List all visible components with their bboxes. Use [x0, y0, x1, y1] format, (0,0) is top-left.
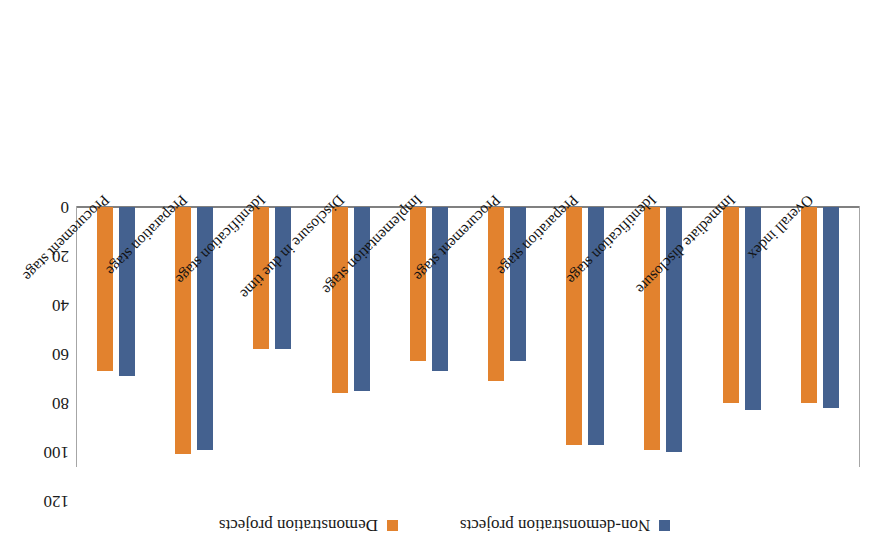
x-axis-category-labels: Overall indexImmediate disclosureIdentif…	[77, 55, 859, 205]
category-label-slot: Procurement stage	[468, 55, 546, 205]
bar-demonstration	[175, 207, 191, 454]
bar-non-demonstration	[275, 207, 291, 349]
bar-non-demonstration	[119, 207, 135, 376]
bar-demonstration	[566, 207, 582, 445]
bar-non-demonstration	[354, 207, 370, 391]
category-label-slot: Immediate disclosure	[703, 55, 781, 205]
bar-group	[703, 207, 781, 557]
y-axis-tick-label: 80	[17, 395, 69, 412]
bar-group	[781, 207, 859, 557]
bar-demonstration	[97, 207, 113, 371]
bar-demonstration	[801, 207, 817, 403]
bar-non-demonstration	[823, 207, 839, 408]
category-label-slot: Implementation stage	[390, 55, 468, 205]
category-label-slot: Identification stage	[233, 55, 311, 205]
bar-non-demonstration	[510, 207, 526, 361]
bar-demonstration	[488, 207, 504, 381]
category-label-slot: Preparation stage	[155, 55, 233, 205]
bar-demonstration	[645, 207, 661, 450]
y-axis-tick-label: 60	[17, 346, 69, 363]
category-label-slot: Disclosure in due time	[312, 55, 390, 205]
y-axis-tick-label: 0	[17, 199, 69, 216]
figure-rotation-wrapper: Non-demonstration projects Demonstration…	[0, 0, 889, 557]
category-label-slot: Preparation stage	[546, 55, 624, 205]
y-axis-tick-label: 100	[17, 444, 69, 461]
y-axis-tick-label: 120	[17, 493, 69, 510]
category-label-slot: Identification stage	[624, 55, 702, 205]
bar-chart-figure: Non-demonstration projects Demonstration…	[0, 0, 889, 557]
bar-non-demonstration	[432, 207, 448, 371]
category-label-slot: Overall index	[781, 55, 859, 205]
bar-demonstration	[723, 207, 739, 403]
bar-demonstration	[332, 207, 348, 393]
y-axis-tick-label: 40	[17, 297, 69, 314]
category-label-slot: Procurement stage	[77, 55, 155, 205]
